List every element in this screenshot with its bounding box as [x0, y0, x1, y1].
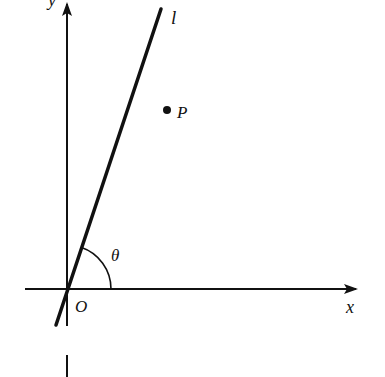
angle-theta-arc — [81, 247, 111, 289]
coordinate-diagram: y x l P θ O — [0, 0, 385, 377]
point-p-label: P — [176, 103, 187, 122]
x-axis-label: x — [345, 297, 354, 317]
angle-theta-label: θ — [111, 246, 119, 265]
y-axis-label: y — [46, 0, 56, 10]
origin-label: O — [75, 297, 87, 316]
line-l-label: l — [171, 7, 176, 28]
line-l — [56, 9, 161, 325]
point-p-dot — [163, 106, 171, 114]
